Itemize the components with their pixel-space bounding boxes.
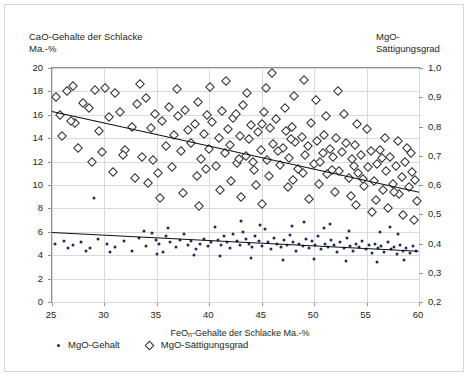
data-point xyxy=(411,244,414,247)
x-axis-title-rest: -Gehalte der Schlacke Ma.-% xyxy=(192,328,310,338)
data-point xyxy=(215,185,225,195)
data-point xyxy=(254,235,257,238)
y-tick-right xyxy=(419,273,423,274)
data-point xyxy=(376,261,379,264)
y-tick-right xyxy=(419,68,423,69)
data-point xyxy=(217,106,227,116)
y-tick-right xyxy=(419,97,423,98)
data-point xyxy=(338,147,348,157)
data-point xyxy=(178,188,188,198)
data-point xyxy=(259,108,269,118)
data-point xyxy=(299,75,309,85)
data-point xyxy=(392,246,395,249)
data-point xyxy=(382,166,392,176)
right-axis-title: MgO-Sättigungsgrad xyxy=(376,31,463,55)
data-point xyxy=(192,254,195,257)
data-point xyxy=(261,83,271,93)
data-point xyxy=(150,231,153,234)
data-point xyxy=(157,116,167,126)
data-point xyxy=(333,86,343,96)
data-point xyxy=(145,244,148,247)
data-point xyxy=(291,224,294,227)
data-point xyxy=(108,250,111,253)
data-point xyxy=(244,134,254,144)
data-point xyxy=(62,240,65,243)
data-point xyxy=(176,146,186,156)
y-axis-label-left: 0 xyxy=(5,296,43,307)
data-point xyxy=(256,145,266,155)
data-point xyxy=(356,150,366,160)
y-axis-label-left: 12 xyxy=(5,155,43,166)
data-point xyxy=(94,126,104,136)
data-point xyxy=(172,84,182,94)
data-point xyxy=(361,240,364,243)
data-point xyxy=(97,147,107,157)
data-point xyxy=(307,247,310,250)
data-point xyxy=(88,247,91,250)
data-point xyxy=(378,185,388,195)
data-point xyxy=(173,111,183,121)
data-point xyxy=(270,248,273,251)
data-point xyxy=(328,222,331,225)
data-point xyxy=(130,173,140,183)
data-point xyxy=(150,109,160,119)
data-point xyxy=(169,241,172,244)
data-point xyxy=(201,164,211,174)
data-point xyxy=(379,230,382,233)
data-point xyxy=(314,179,324,189)
data-point xyxy=(258,223,261,226)
data-point xyxy=(311,95,321,105)
data-point xyxy=(388,226,391,229)
legend-label: MgO-Gehalt xyxy=(68,339,120,350)
data-point xyxy=(238,100,248,110)
data-point xyxy=(193,97,203,107)
data-point xyxy=(137,152,147,162)
data-point xyxy=(241,230,244,233)
data-point xyxy=(108,167,118,177)
data-point xyxy=(154,238,157,241)
data-point xyxy=(235,131,245,141)
y-axis-label-right: 0,6 xyxy=(428,179,441,190)
data-point xyxy=(218,255,221,258)
data-point xyxy=(367,243,370,246)
data-point xyxy=(351,249,354,252)
data-point xyxy=(320,248,323,251)
data-point xyxy=(87,157,97,167)
data-point xyxy=(97,237,100,240)
data-point xyxy=(199,129,209,139)
data-point xyxy=(321,111,331,121)
data-point xyxy=(347,229,350,232)
data-point xyxy=(273,236,276,239)
y-tick-right xyxy=(419,185,423,186)
data-point xyxy=(371,195,381,205)
data-point xyxy=(80,241,83,244)
data-point xyxy=(391,161,401,171)
data-point xyxy=(123,240,126,243)
data-point xyxy=(383,203,393,213)
y-axis-label-left: 18 xyxy=(5,85,43,96)
y-axis-label-left: 8 xyxy=(5,202,43,213)
data-point xyxy=(148,155,158,165)
data-point xyxy=(214,133,224,143)
data-point xyxy=(373,242,376,245)
data-point xyxy=(398,210,408,220)
data-point xyxy=(260,244,263,247)
data-point xyxy=(192,171,202,181)
data-point xyxy=(196,154,206,164)
data-point xyxy=(51,92,61,102)
data-point xyxy=(263,228,266,231)
data-point xyxy=(155,193,165,203)
data-point xyxy=(210,241,213,244)
legend-circle-icon xyxy=(57,344,60,347)
legend-item: MgO-Gehalt xyxy=(57,339,120,350)
data-point xyxy=(406,148,416,158)
data-point xyxy=(58,131,68,141)
data-point xyxy=(282,238,285,241)
data-point xyxy=(280,103,290,113)
data-point xyxy=(219,243,222,246)
data-point xyxy=(289,91,299,101)
data-point xyxy=(322,227,325,230)
data-point xyxy=(346,191,356,201)
plot-area xyxy=(51,67,420,303)
data-point xyxy=(157,242,160,245)
